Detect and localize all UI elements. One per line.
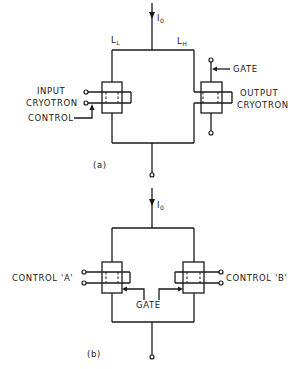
output-cryotron-label-1: OUTPUT <box>240 88 278 98</box>
control-b-label: CONTROL 'B' <box>226 273 287 283</box>
bottom-terminal-a <box>150 173 154 177</box>
input-terminal-top <box>84 90 88 94</box>
output-cryotron-label-2: CRYOTRON <box>237 100 289 110</box>
input-cryotron-body <box>102 82 122 113</box>
control-a-label: CONTROL 'A' <box>12 273 73 283</box>
gate-terminal-bottom <box>209 131 213 135</box>
diagram-a: I0 LL LH INPUT CRYOTRON CONTROL <box>26 3 289 177</box>
inductance-left-label: LL <box>111 35 120 46</box>
caption-b: (b) <box>87 349 101 359</box>
cryotron-circuit-figure: I0 LL LH INPUT CRYOTRON CONTROL <box>0 0 299 369</box>
caption-a: (a) <box>93 160 107 170</box>
inductance-right-label: LH <box>177 36 187 47</box>
gate-leader-left <box>126 289 144 300</box>
cryotron-b-body <box>183 262 204 293</box>
gate-arrow-right-icon <box>178 287 183 292</box>
gate-label-b: GATE <box>136 300 161 310</box>
current-arrow-icon <box>149 12 155 19</box>
current-arrow-icon <box>149 199 155 206</box>
gate-terminal-top <box>209 58 213 62</box>
control-a-terminal-bottom <box>82 281 86 285</box>
diagram-b: I0 CONTROL 'A' CONTROL 'B' GATE <box>12 188 287 359</box>
cryotron-a-body <box>102 262 122 293</box>
output-cryotron-body <box>201 82 222 113</box>
current-label-a: I0 <box>157 13 165 24</box>
input-terminal-bottom <box>84 101 88 105</box>
control-arrow-icon <box>90 104 95 110</box>
input-cryotron-label-2: CRYOTRON <box>26 98 78 108</box>
current-label-b: I0 <box>157 200 165 211</box>
control-label: CONTROL <box>28 113 74 123</box>
gate-leader-right <box>159 289 178 300</box>
control-b-terminal-top <box>219 270 223 274</box>
gate-arrow-icon <box>212 67 217 72</box>
gate-arrow-left-icon <box>122 287 127 292</box>
input-cryotron-label-1: INPUT <box>37 86 66 96</box>
bottom-terminal-b <box>150 355 154 359</box>
gate-label-a: GATE <box>233 64 258 74</box>
control-a-terminal-top <box>82 270 86 274</box>
control-b-terminal-bottom <box>219 281 223 285</box>
